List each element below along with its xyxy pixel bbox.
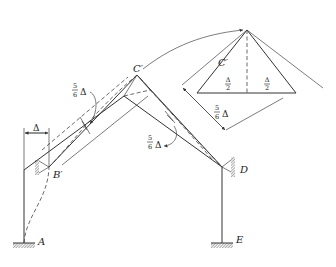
half-left-den: 2 [226,84,230,92]
half-right-num: Δ [265,76,270,84]
frac-den: 6 [73,91,77,99]
displaced-frame [42,75,222,167]
label-e: E [235,234,244,245]
delta-symbol: Δ [222,109,229,119]
delta-label: Δ [33,123,40,133]
frac-num: 5 [148,134,152,142]
frac-num: 5 [73,82,77,90]
label-c-prime: C′ [133,63,144,74]
label-a: A [37,236,45,247]
deflected-shape [24,75,137,243]
half-left-num: Δ [226,76,231,84]
delta-symbol: Δ [80,87,87,97]
detail-leader-arrow [143,30,243,69]
fixed-support-e [211,243,233,248]
frame-diagram: Δ 5 6 Δ 5 6 Δ C′ Δ 2 [0,0,336,267]
detail-displacement-diagram: C′ Δ 2 Δ 2 5 6 Δ [182,30,323,130]
half-right-den: 2 [265,84,269,92]
frac-den: 6 [148,143,152,151]
frac-den: 6 [215,113,219,121]
fixed-support-a [13,243,35,248]
roller-support-d [222,157,235,177]
label-b-prime: B′ [52,169,63,180]
delta-symbol: Δ [155,140,162,150]
c-prime-detail-label: C′ [218,57,229,68]
roller-support-b [35,160,49,175]
label-d: D [239,164,248,175]
frac-num: 5 [215,104,219,112]
